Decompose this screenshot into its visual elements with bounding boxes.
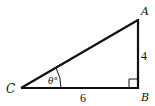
triangle [21, 19, 139, 89]
triangle-diagram: A B C 4 6 θ° [0, 0, 155, 106]
side-label-cb: 6 [80, 91, 86, 105]
side-label-ab: 4 [141, 49, 147, 63]
side-ca [21, 20, 138, 88]
right-angle-marker [129, 79, 138, 88]
angle-label-theta: θ° [48, 76, 58, 86]
vertex-label-a: A [140, 5, 149, 18]
vertex-label-c: C [6, 82, 15, 96]
vertex-label-b: B [140, 91, 149, 104]
